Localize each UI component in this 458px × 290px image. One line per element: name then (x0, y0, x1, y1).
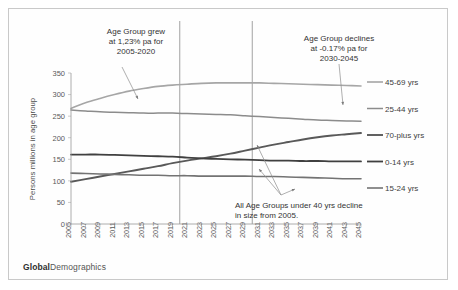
chart-frame: 050100150200250300350 200520072009201120… (8, 8, 448, 280)
series-line-group (71, 83, 361, 182)
chart-canvas: 050100150200250300350 200520072009201120… (9, 9, 449, 281)
annot-growth-line-1: Age Group grew (107, 27, 165, 36)
annot-under40-line-1: All Age Groups under 40 yrs decline (235, 201, 363, 210)
y-tick-label-50: 50 (57, 198, 65, 207)
y-axis-tick-group: 050100150200250300350 (52, 69, 71, 229)
legend-label-70-plus-yrs[interactable]: 70-plus yrs (385, 131, 424, 140)
legend[interactable]: 45-69 yrs25-44 yrs70-plus yrs0-14 yrs15-… (367, 78, 424, 193)
annot-decline-line-3: 2030-2045 (320, 54, 359, 63)
annot-growth-line-2: at 1,23% pa for (109, 37, 164, 46)
series-line-15-24-yrs[interactable] (71, 173, 361, 179)
brand-bold-text: Global (23, 262, 50, 272)
y-tick-label-200: 200 (52, 134, 65, 143)
leader-under40-mid (259, 169, 281, 195)
annot-decline-line-2: at -0.17% pa for (311, 44, 368, 53)
line-chart-svg: 050100150200250300350 200520072009201120… (9, 9, 449, 281)
annot-growth-line-3: 2005-2020 (117, 47, 156, 56)
leader-decline (339, 64, 343, 105)
y-tick-label-100: 100 (52, 177, 65, 186)
annot-decline-line-1: Age Group declines (304, 34, 374, 43)
y-tick-label-350: 350 (52, 69, 65, 78)
series-line-25-44-yrs[interactable] (71, 110, 361, 121)
y-axis-title: Persons millions in age group (28, 97, 37, 200)
legend-label-0-14-yrs[interactable]: 0-14 yrs (385, 158, 414, 167)
y-tick-label-250: 250 (52, 112, 65, 121)
legend-label-15-24-yrs[interactable]: 15-24 yrs (385, 184, 418, 193)
legend-label-45-69-yrs[interactable]: 45-69 yrs (385, 78, 418, 87)
legend-label-25-44-yrs[interactable]: 25-44 yrs (385, 105, 418, 114)
series-line-45-69-yrs[interactable] (71, 83, 361, 108)
y-tick-label-150: 150 (52, 155, 65, 164)
vertical-reference-line-group (180, 21, 253, 224)
y-tick-label-300: 300 (52, 90, 65, 99)
annotation-group: Age Group grewat 1,23% pa for2005-2020Ag… (107, 27, 374, 220)
brand-footer: GlobalDemographics (23, 262, 106, 272)
x-tick-label-2011: 2011 (108, 222, 117, 237)
brand-rest-text: Demographics (50, 262, 106, 272)
annot-under40-line-2: in size from 2005. (235, 211, 298, 220)
leader-growth (122, 67, 138, 99)
